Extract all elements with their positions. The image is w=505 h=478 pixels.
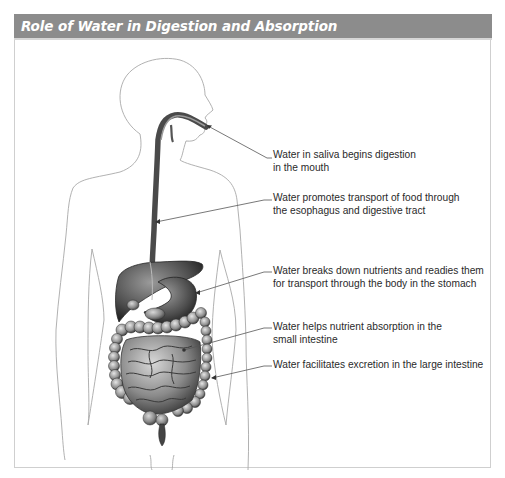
label-large-intestine: Water facilitates excretion in the large…: [273, 358, 483, 371]
label-mouth: Water in saliva begins digestion in the …: [273, 148, 416, 174]
label-stomach: Water breaks down nutrients and readies …: [273, 264, 484, 290]
leader-small-intestine: [184, 328, 272, 350]
leader-large-intestine: [212, 366, 272, 378]
label-small-intestine: Water helps nutrient absorption in the s…: [273, 320, 442, 346]
leader-mouth: [208, 126, 272, 158]
leader-stomach: [196, 272, 272, 293]
label-esophagus: Water promotes transport of food through…: [273, 191, 460, 217]
rectum: [159, 424, 166, 446]
digestive-system-illustration: [0, 0, 505, 478]
leader-esophagus: [156, 200, 272, 222]
esophagus: [152, 115, 206, 275]
